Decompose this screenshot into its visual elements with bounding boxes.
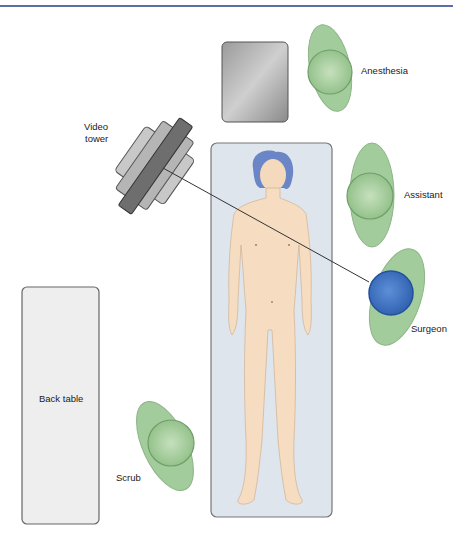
assistant-label: Assistant	[404, 189, 443, 201]
assistant-staff	[347, 143, 394, 247]
video-tower	[99, 104, 210, 226]
anesthesia-machine	[222, 42, 288, 122]
back-table-label: Back table	[39, 393, 83, 405]
back-table	[22, 287, 99, 524]
scrub-label: Scrub	[116, 472, 141, 484]
surgeon-label: Surgeon	[411, 323, 447, 335]
or-layout-diagram	[0, 0, 471, 547]
video-tower-label-line1: Video	[84, 121, 108, 133]
surgeon-staff	[359, 242, 436, 352]
anesthesia-staff	[301, 21, 358, 115]
video-tower-label-line2: tower	[85, 133, 108, 145]
anesthesia-label: Anesthesia	[361, 65, 408, 77]
